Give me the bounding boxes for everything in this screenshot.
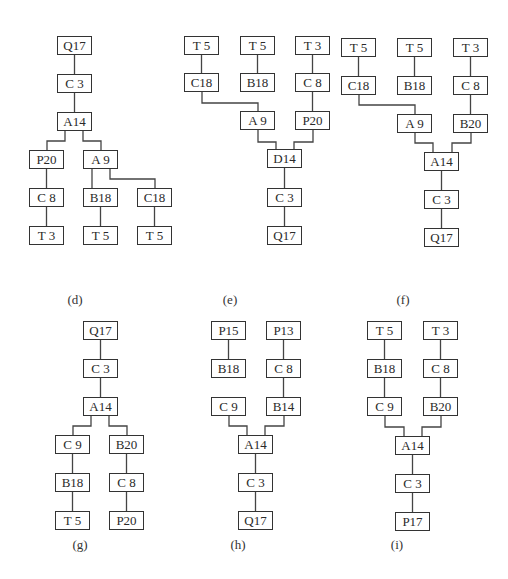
tree-node: B18 [240, 73, 275, 92]
tree-node: B20 [453, 114, 488, 133]
tree-node: Q17 [83, 321, 118, 340]
tree-node: T 5 [397, 38, 432, 57]
tree-node: Q17 [57, 36, 92, 55]
panel-caption: (e) [210, 292, 250, 308]
tree-node: T 5 [55, 511, 90, 530]
tree-node: T 5 [137, 226, 172, 245]
tree-node: A 9 [240, 111, 275, 130]
tree-node: B18 [211, 359, 246, 378]
tree-node: B20 [109, 435, 144, 454]
tree-node: C 3 [238, 473, 273, 492]
tree-node: A14 [83, 397, 118, 416]
tree-node: T 5 [240, 36, 275, 55]
tree-node: T 3 [295, 36, 330, 55]
tree-node: P13 [266, 321, 301, 340]
tree-node: Q17 [238, 511, 273, 530]
tree-node: Q17 [267, 226, 302, 245]
panel-caption: (d) [55, 292, 95, 308]
tree-node: A14 [424, 152, 459, 171]
tree-node: C 3 [395, 474, 430, 493]
tree-node: T 3 [453, 38, 488, 57]
tree-node: P17 [395, 512, 430, 531]
tree-node: B18 [83, 188, 118, 207]
tree-node: P20 [295, 111, 330, 130]
tree-node: T 3 [423, 321, 458, 340]
tree-node: P20 [109, 511, 144, 530]
tree-node: D14 [267, 149, 302, 168]
tree-node: C 8 [29, 188, 64, 207]
tree-node: A14 [395, 436, 430, 455]
tree-node: C 8 [266, 359, 301, 378]
tree-node: T 3 [29, 226, 64, 245]
tree-node: C18 [137, 188, 172, 207]
tree-diagram-figure: Q17C 3A14P20A 9C 8B18C18T 3T 5T 5(d)T 5T… [0, 0, 508, 579]
tree-node: B18 [367, 359, 402, 378]
tree-node: B20 [423, 397, 458, 416]
tree-node: Q17 [424, 228, 459, 247]
tree-node: C 9 [55, 435, 90, 454]
tree-node: P20 [29, 150, 64, 169]
tree-node: T 5 [341, 38, 376, 57]
panel-caption: (h) [218, 537, 258, 553]
tree-node: B18 [397, 76, 432, 95]
tree-node: C 3 [424, 190, 459, 209]
tree-node: C 9 [367, 397, 402, 416]
tree-node: T 5 [83, 226, 118, 245]
panel-caption: (f) [383, 292, 423, 308]
tree-node: C 3 [267, 188, 302, 207]
tree-node: C 8 [109, 473, 144, 492]
tree-node: C18 [341, 76, 376, 95]
tree-node: A14 [57, 112, 92, 131]
tree-node: C 9 [211, 397, 246, 416]
tree-node: A14 [238, 435, 273, 454]
panel-caption: (i) [377, 537, 417, 553]
panel-caption: (g) [60, 537, 100, 553]
tree-node: T 5 [184, 36, 219, 55]
tree-node: C18 [184, 73, 219, 92]
tree-node: P15 [211, 321, 246, 340]
tree-node: B18 [55, 473, 90, 492]
tree-node: T 5 [367, 321, 402, 340]
tree-node: C 3 [57, 74, 92, 93]
tree-node: B14 [266, 397, 301, 416]
tree-node: C 8 [295, 73, 330, 92]
tree-node: C 8 [453, 76, 488, 95]
tree-node: A 9 [83, 150, 118, 169]
tree-node: A 9 [397, 114, 432, 133]
tree-node: C 8 [423, 359, 458, 378]
tree-node: C 3 [83, 359, 118, 378]
